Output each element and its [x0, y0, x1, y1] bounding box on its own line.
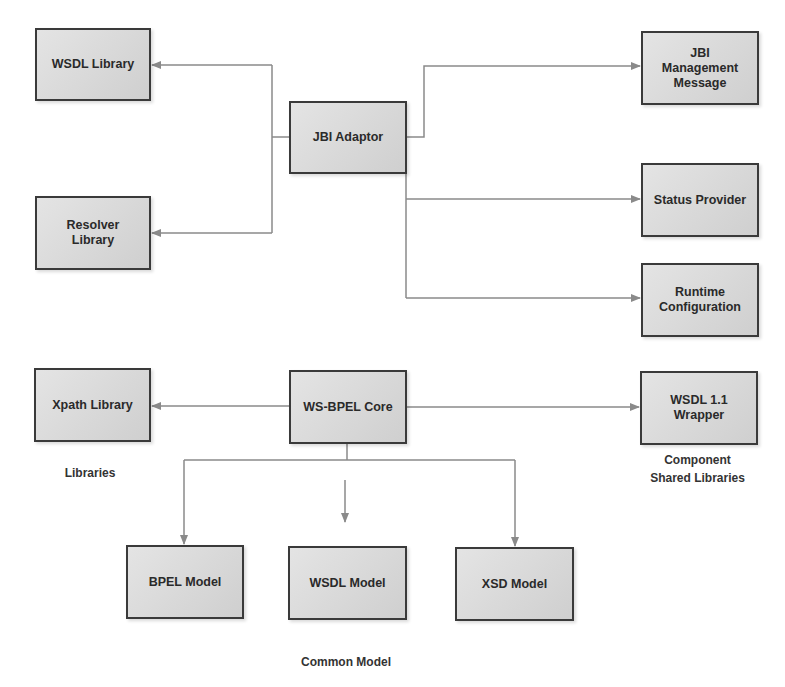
node-bpel-model: BPEL Model [126, 545, 244, 619]
node-label: WSDL Library [52, 57, 134, 72]
group-label-common-model: Common Model [276, 655, 416, 670]
node-wsdl-model: WSDL Model [288, 546, 407, 620]
node-ws-bpel-core: WS-BPEL Core [289, 370, 407, 444]
node-label: BPEL Model [149, 575, 222, 590]
node-wsdl-library: WSDL Library [35, 28, 151, 101]
node-label: Xpath Library [52, 398, 133, 413]
node-label: XSD Model [482, 577, 547, 592]
node-label: JBI Management Message [660, 46, 740, 91]
node-xpath-library: Xpath Library [34, 368, 151, 442]
node-label: WSDL Model [309, 576, 385, 591]
node-label: WSDL 1.1 Wrapper [664, 393, 734, 423]
node-jbi-adaptor: JBI Adaptor [289, 101, 407, 174]
node-xsd-model: XSD Model [455, 547, 574, 621]
node-wsdl-wrapper: WSDL 1.1 Wrapper [640, 371, 758, 445]
node-label: WS-BPEL Core [303, 400, 392, 415]
node-status-provider: Status Provider [641, 163, 759, 237]
node-label: Runtime Configuration [655, 285, 745, 315]
node-resolver-library: Resolver Library [35, 196, 151, 270]
node-label: JBI Adaptor [313, 130, 383, 145]
node-runtime-configuration: Runtime Configuration [641, 263, 759, 337]
node-jbi-management-message: JBI Management Message [641, 31, 759, 105]
node-label: Status Provider [654, 193, 746, 208]
group-label-component-shared-libraries: Component Shared Libraries [650, 451, 745, 487]
group-label-libraries: Libraries [40, 466, 140, 481]
node-label: Resolver Library [58, 218, 128, 248]
